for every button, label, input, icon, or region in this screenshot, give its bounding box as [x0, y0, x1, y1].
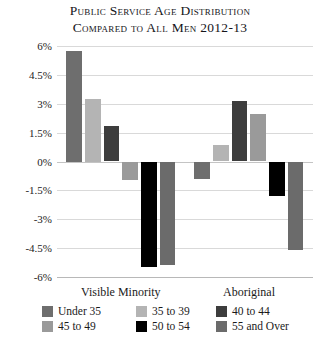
group-label-visible-minority: Visible Minority — [81, 285, 161, 299]
y-axis-tick-label: 3% — [0, 98, 52, 109]
legend-swatch-icon — [216, 321, 227, 332]
y-axis-tick-label: 0% — [0, 156, 52, 167]
legend-swatch-icon — [136, 321, 147, 332]
group-label-aboriginal: Aboriginal — [223, 285, 275, 299]
bar — [122, 162, 138, 180]
legend-label: 55 and Over — [232, 320, 289, 332]
bar — [194, 162, 210, 179]
legend-label: 50 to 54 — [152, 320, 190, 332]
legend-item-40-to-44[interactable]: 40 to 44 — [216, 305, 270, 317]
legend-label: 40 to 44 — [232, 305, 270, 317]
plot-area — [57, 46, 313, 277]
y-axis-tick-label: 1.5% — [0, 127, 52, 138]
bar — [160, 162, 176, 266]
legend-label: 35 to 39 — [152, 305, 190, 317]
legend-item-50-to-54[interactable]: 50 to 54 — [136, 320, 190, 332]
bar — [269, 162, 285, 197]
x-axis-group-labels: Visible MinorityAboriginal — [0, 285, 320, 301]
chart-container: Public Service Age Distribution Compared… — [0, 0, 320, 339]
bar — [232, 101, 248, 162]
legend-item-45-to-49[interactable]: 45 to 49 — [42, 320, 96, 332]
legend-swatch-icon — [136, 306, 147, 317]
legend-item-55-and-over[interactable]: 55 and Over — [216, 320, 289, 332]
bar — [250, 114, 266, 161]
chart-legend: Under 3535 to 3940 to 4445 to 4950 to 54… — [42, 305, 320, 335]
y-axis-tick-label: -4.5% — [0, 243, 52, 254]
bar — [288, 162, 304, 251]
legend-item-under-35[interactable]: Under 35 — [42, 305, 101, 317]
y-axis-tick-label: -6% — [0, 272, 52, 283]
bar — [141, 162, 157, 268]
bar — [66, 51, 82, 162]
legend-label: Under 35 — [58, 305, 101, 317]
legend-item-35-to-39[interactable]: 35 to 39 — [136, 305, 190, 317]
y-axis-tick-label: 4.5% — [0, 69, 52, 80]
y-axis-tick-label: -3% — [0, 214, 52, 225]
gridline-neg3 — [57, 219, 313, 220]
bar — [213, 145, 229, 161]
bar — [85, 99, 101, 162]
y-axis-tick-label: 6% — [0, 41, 52, 52]
gridline-6 — [57, 46, 313, 47]
x-axis-line — [57, 277, 313, 278]
bar — [104, 126, 120, 162]
legend-swatch-icon — [42, 306, 53, 317]
y-axis-tick-label: -1.5% — [0, 185, 52, 196]
gridline-4p5 — [57, 75, 313, 76]
gridline-neg4p5 — [57, 248, 313, 249]
legend-swatch-icon — [42, 321, 53, 332]
legend-label: 45 to 49 — [58, 320, 96, 332]
legend-swatch-icon — [216, 306, 227, 317]
